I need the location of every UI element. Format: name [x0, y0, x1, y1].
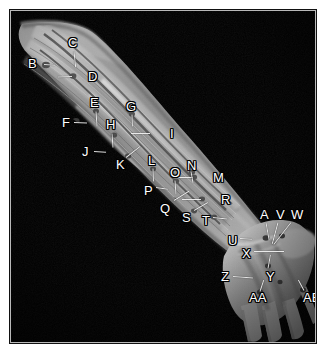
- label-aa: AA: [249, 291, 266, 304]
- label-o: O: [170, 166, 180, 179]
- figure-plate: BCDEFGHIJKLMNOPQRSTUXAVWYZAAAB: [10, 10, 316, 343]
- label-y: Y: [266, 270, 275, 283]
- label-q: Q: [160, 202, 170, 215]
- label-r: R: [221, 193, 230, 206]
- label-n: N: [187, 159, 196, 172]
- label-c: C: [68, 36, 77, 49]
- label-t: T: [202, 214, 210, 227]
- label-p: P: [144, 184, 153, 197]
- leader-line-x: [254, 251, 284, 252]
- label-s: S: [182, 211, 191, 224]
- label-g: G: [126, 100, 136, 113]
- label-f: F: [62, 116, 70, 129]
- label-h: H: [106, 118, 115, 131]
- label-u: U: [228, 234, 237, 247]
- label-a: A: [260, 208, 269, 221]
- label-w: W: [291, 208, 303, 221]
- label-ab: AB: [303, 291, 316, 304]
- label-b: B: [28, 57, 37, 70]
- leader-line-r: [182, 199, 201, 200]
- leader-line-i: [131, 133, 150, 134]
- label-i: I: [170, 127, 174, 140]
- label-l: L: [148, 154, 155, 167]
- label-v: V: [276, 208, 285, 221]
- label-d: D: [88, 70, 97, 83]
- label-x: X: [242, 247, 251, 260]
- label-e: E: [90, 96, 99, 109]
- forearm-dissection-image: [10, 10, 316, 343]
- label-z: Z: [221, 270, 229, 283]
- label-j: J: [82, 145, 89, 158]
- label-m: M: [213, 171, 224, 184]
- label-k: K: [116, 158, 125, 171]
